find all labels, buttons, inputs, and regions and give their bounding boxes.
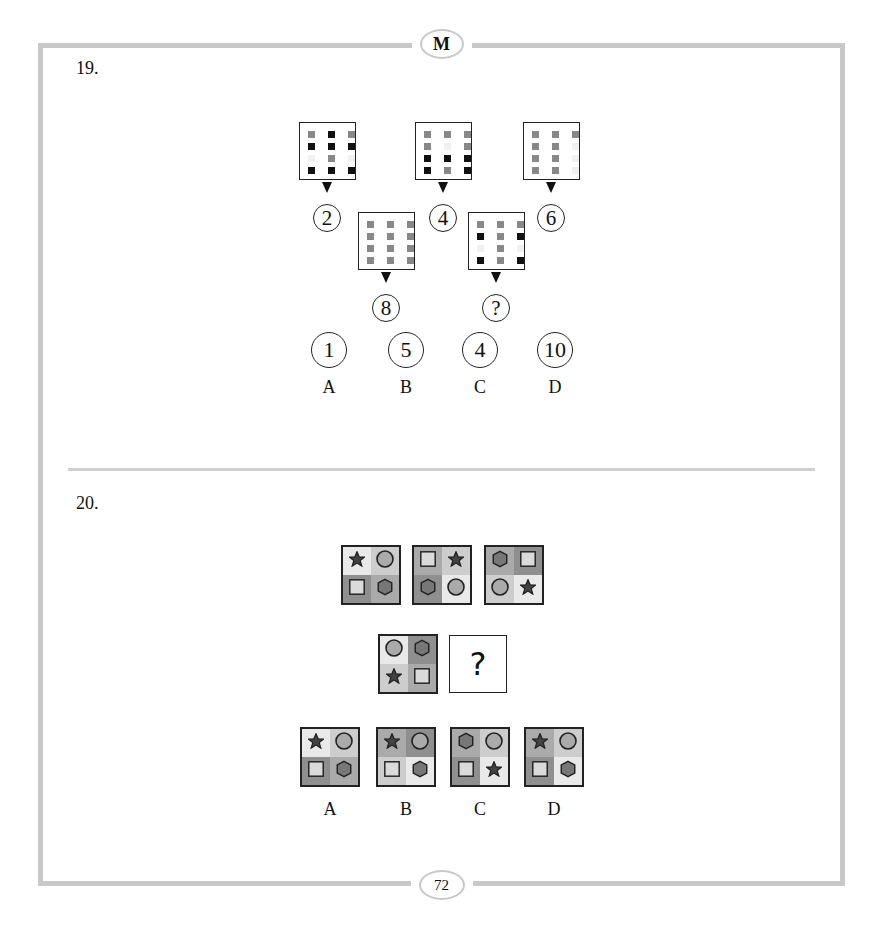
section-divider — [68, 468, 815, 471]
dot-cell — [444, 167, 451, 174]
star-icon — [386, 668, 402, 688]
answer-option-a[interactable]: 1 — [311, 332, 347, 368]
dot-grid — [299, 122, 356, 180]
hexagon-icon — [491, 550, 509, 572]
quadrant — [554, 729, 582, 757]
quadrant — [371, 575, 399, 603]
dot-matrix — [308, 131, 355, 174]
circle-icon — [410, 731, 430, 755]
question-20-number: 20. — [76, 493, 99, 514]
arrow-down-icon — [546, 182, 556, 193]
quadrant — [452, 757, 480, 785]
answer-option-b[interactable]: 5 — [388, 332, 424, 368]
quadrant — [302, 729, 330, 757]
square-icon — [519, 550, 537, 572]
circle-icon — [375, 549, 395, 573]
quadrant — [442, 575, 470, 603]
quadrant — [380, 636, 408, 664]
dot-cell — [464, 143, 471, 150]
quadrant — [408, 636, 436, 664]
square-icon — [348, 578, 366, 600]
arrow-down-icon — [322, 182, 332, 193]
dot-cell — [464, 155, 471, 162]
dot-cell — [444, 131, 451, 138]
dot-cell — [424, 131, 431, 138]
dot-cell — [517, 233, 524, 240]
circle-icon — [384, 638, 404, 662]
hexagon-icon — [376, 578, 394, 600]
dot-cell — [497, 221, 504, 228]
quadrant — [554, 757, 582, 785]
dot-cell — [464, 167, 471, 174]
star-icon — [520, 579, 536, 599]
quadrant — [343, 547, 371, 575]
option-letter: B — [396, 799, 416, 820]
quadrant — [442, 547, 470, 575]
answer-option-a[interactable] — [300, 727, 360, 787]
page-frame: M 19. 2468?1A5B4C10D 20. ?ABCD 72 — [38, 43, 845, 886]
square-icon — [383, 760, 401, 782]
answer-option-d[interactable] — [524, 727, 584, 787]
value-circle: 2 — [313, 204, 341, 232]
dot-cell — [367, 257, 374, 264]
missing-tile: ? — [449, 635, 507, 693]
dot-cell — [367, 245, 374, 252]
dot-cell — [407, 233, 414, 240]
dot-cell — [497, 245, 504, 252]
dot-cell — [348, 155, 355, 162]
answer-option-d[interactable]: 10 — [537, 332, 573, 368]
arrow-down-icon — [491, 272, 501, 283]
quadrant — [406, 729, 434, 757]
star-icon — [532, 733, 548, 753]
dot-cell — [407, 245, 414, 252]
dot-cell — [532, 143, 539, 150]
dot-cell — [387, 245, 394, 252]
sequence-tile — [412, 545, 472, 605]
dot-matrix — [477, 221, 524, 264]
page-number: 72 — [419, 870, 465, 900]
answer-option-b[interactable] — [376, 727, 436, 787]
square-icon — [457, 760, 475, 782]
dot-cell — [552, 167, 559, 174]
quadrant — [343, 575, 371, 603]
dot-cell — [308, 167, 315, 174]
circle-icon — [334, 731, 354, 755]
header-badge: M — [412, 29, 472, 59]
dot-cell — [387, 257, 394, 264]
quadrant — [526, 757, 554, 785]
dot-cell — [477, 257, 484, 264]
value-circle: 8 — [372, 294, 400, 322]
value-circle: 6 — [537, 204, 565, 232]
answer-option-c[interactable]: 4 — [462, 332, 498, 368]
dot-cell — [552, 155, 559, 162]
dot-cell — [328, 167, 335, 174]
arrow-down-icon — [381, 272, 391, 283]
dot-cell — [444, 155, 451, 162]
dot-cell — [424, 143, 431, 150]
dot-cell — [532, 155, 539, 162]
quadrant — [330, 757, 358, 785]
hexagon-icon — [411, 760, 429, 782]
circle-icon — [484, 731, 504, 755]
dot-cell — [552, 131, 559, 138]
quadrant — [378, 729, 406, 757]
quadrant — [486, 575, 514, 603]
star-icon — [448, 551, 464, 571]
dot-cell — [328, 143, 335, 150]
dot-grid — [468, 212, 525, 270]
question-19-number: 19. — [76, 58, 99, 79]
dot-cell — [552, 143, 559, 150]
value-circle: 4 — [429, 204, 457, 232]
quadrant — [526, 729, 554, 757]
dot-matrix — [424, 131, 471, 174]
dot-cell — [308, 131, 315, 138]
dot-cell — [348, 131, 355, 138]
dot-cell — [308, 155, 315, 162]
star-icon — [308, 733, 324, 753]
dot-cell — [387, 233, 394, 240]
hexagon-icon — [559, 760, 577, 782]
dot-cell — [517, 221, 524, 228]
dot-cell — [464, 131, 471, 138]
answer-option-c[interactable] — [450, 727, 510, 787]
quadrant — [514, 575, 542, 603]
